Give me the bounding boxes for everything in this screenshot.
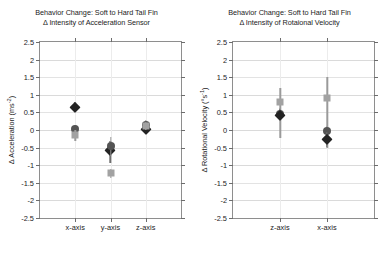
y-axis-tick-mark xyxy=(229,130,233,131)
y-axis-label-left: Δ Acceleration (ms-2) xyxy=(6,96,16,164)
y-axis-tick-label: 1.5 xyxy=(24,73,34,82)
gridline-horizontal xyxy=(233,148,374,149)
x-axis-tick-mark xyxy=(280,218,281,222)
plot-area-acceleration: 2.521.510.50-0.5-1-1.5-2-2.5x-axisy-axis… xyxy=(39,41,182,219)
chart-panel-acceleration: Behavior Change: Soft to Hard Tail Fin Δ… xyxy=(0,0,193,266)
x-axis-tick-mark xyxy=(111,218,112,222)
y-axis-tick-mark-right xyxy=(374,183,378,184)
y-axis-label-left-paren: ) xyxy=(7,96,16,98)
gridline-horizontal xyxy=(233,165,374,166)
y-axis-tick-label: 2.5 xyxy=(217,38,227,47)
y-axis-tick-mark xyxy=(229,60,233,61)
x-axis-tick-mark-top xyxy=(75,38,76,42)
x-axis-tick-mark-top xyxy=(111,38,112,42)
y-axis-tick-mark-right xyxy=(181,130,185,131)
figure-canvas: Behavior Change: Soft to Hard Tail Fin Δ… xyxy=(0,0,386,266)
y-axis-tick-label: 0.5 xyxy=(217,108,227,117)
y-axis-tick-label: 0 xyxy=(223,126,227,135)
x-axis-category-label: x-axis xyxy=(317,223,336,232)
gridline-horizontal xyxy=(233,200,374,201)
y-axis-tick-mark xyxy=(229,148,233,149)
y-axis-tick-mark xyxy=(229,42,233,43)
plot-area-rotational-velocity: 2.521.510.50-0.5-1-1.5-2-2.5z-axisx-axis xyxy=(232,41,375,219)
y-axis-tick-mark-right xyxy=(181,60,185,61)
y-axis-tick-mark xyxy=(36,218,40,219)
y-axis-label-left-text: Δ Acceleration (ms xyxy=(7,103,16,164)
y-axis-tick-mark-right xyxy=(374,130,378,131)
chart-title-left: Behavior Change: Soft to Hard Tail Fin xyxy=(0,9,193,18)
x-axis-tick-mark xyxy=(327,218,328,222)
y-axis-tick-mark xyxy=(229,95,233,96)
y-axis-label-right: Δ Rotational Velocity (°s-1) xyxy=(199,88,209,173)
gridline-horizontal xyxy=(233,95,374,96)
y-axis-tick-mark xyxy=(36,77,40,78)
y-axis-tick-mark xyxy=(36,148,40,149)
y-axis-tick-mark-right xyxy=(181,218,185,219)
y-axis-tick-mark-right xyxy=(374,60,378,61)
y-axis-tick-label: -0.5 xyxy=(214,143,227,152)
x-axis-category-label: x-axis xyxy=(66,223,85,232)
y-axis-tick-mark xyxy=(229,112,233,113)
y-axis-tick-mark xyxy=(229,218,233,219)
y-axis-tick-mark xyxy=(229,77,233,78)
data-point-diamond xyxy=(70,102,81,113)
y-axis-tick-mark xyxy=(36,130,40,131)
y-axis-tick-mark-right xyxy=(181,148,185,149)
y-axis-tick-mark-right xyxy=(374,42,378,43)
x-axis-category-label: z-axis xyxy=(270,223,289,232)
y-axis-tick-mark-right xyxy=(374,112,378,113)
y-axis-tick-mark xyxy=(36,60,40,61)
data-point-diamond xyxy=(321,134,332,145)
data-point-square xyxy=(72,131,79,138)
x-axis-tick-mark-top xyxy=(280,38,281,42)
y-axis-tick-mark-right xyxy=(181,200,185,201)
chart-title-block-left: Behavior Change: Soft to Hard Tail Fin Δ… xyxy=(0,9,193,27)
y-axis-tick-label: -1 xyxy=(220,161,227,170)
x-axis-tick-mark-top xyxy=(146,38,147,42)
y-axis-tick-label: -2 xyxy=(220,196,227,205)
y-axis-tick-mark xyxy=(229,200,233,201)
y-axis-tick-label: 2 xyxy=(223,55,227,64)
data-point-square xyxy=(277,98,284,105)
data-point-square xyxy=(107,169,114,176)
y-axis-tick-mark-right xyxy=(181,165,185,166)
x-axis-tick-mark xyxy=(146,218,147,222)
chart-subtitle-right: Δ Intensity of Rotaional Velocity xyxy=(193,19,386,28)
chart-title-right: Behavior Change: Soft to Hard Tail Fin xyxy=(193,9,386,18)
y-axis-label-right-text: Δ Rotational Velocity (°s xyxy=(200,95,209,173)
y-axis-tick-mark-right xyxy=(181,95,185,96)
y-axis-tick-mark xyxy=(36,183,40,184)
y-axis-tick-mark-right xyxy=(181,183,185,184)
y-axis-tick-mark-right xyxy=(374,218,378,219)
y-axis-tick-label: -0.5 xyxy=(21,143,34,152)
chart-title-block-right: Behavior Change: Soft to Hard Tail Fin Δ… xyxy=(193,9,386,27)
y-axis-tick-mark-right xyxy=(374,77,378,78)
data-point-square xyxy=(324,94,331,101)
y-axis-tick-label: 0.5 xyxy=(24,108,34,117)
y-axis-tick-mark xyxy=(36,95,40,96)
y-axis-tick-label: 2 xyxy=(30,55,34,64)
y-axis-tick-mark xyxy=(36,42,40,43)
y-axis-tick-label: -2 xyxy=(27,196,34,205)
y-axis-tick-label: 1.5 xyxy=(217,73,227,82)
y-axis-label-right-exponent: -1 xyxy=(199,90,205,95)
gridline-horizontal xyxy=(233,183,374,184)
x-axis-tick-mark-top xyxy=(327,38,328,42)
gridline-horizontal xyxy=(233,130,374,131)
gridline-horizontal xyxy=(233,112,374,113)
y-axis-tick-label: -1.5 xyxy=(214,178,227,187)
y-axis-tick-mark-right xyxy=(181,77,185,78)
y-axis-tick-mark-right xyxy=(374,148,378,149)
x-axis-category-label: y-axis xyxy=(101,223,120,232)
y-axis-tick-mark-right xyxy=(181,112,185,113)
y-axis-tick-mark-right xyxy=(181,42,185,43)
x-axis-tick-mark xyxy=(75,218,76,222)
y-axis-tick-mark xyxy=(229,183,233,184)
y-axis-tick-mark xyxy=(36,200,40,201)
data-point-circle xyxy=(107,142,115,150)
y-axis-tick-mark-right xyxy=(374,95,378,96)
y-axis-tick-label: -2.5 xyxy=(21,214,34,223)
y-axis-label-right-paren: ) xyxy=(200,88,209,90)
y-axis-tick-label: 1 xyxy=(30,90,34,99)
x-axis-category-label: z-axis xyxy=(136,223,155,232)
